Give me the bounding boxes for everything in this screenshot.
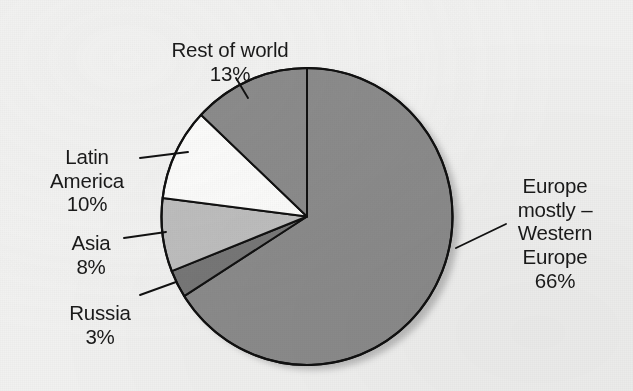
slice-label-russia: Russia 3% [38, 277, 162, 372]
slice-label-russia-name: Russia [69, 301, 130, 324]
slice-label-rest-of-world-value: 13% [132, 62, 328, 86]
slice-label-rest-of-world-name: Rest of world [171, 38, 288, 61]
slice-label-russia-value: 3% [38, 325, 162, 349]
slice-label-rest-of-world: Rest of world 13% [132, 14, 328, 109]
pie-chart-figure: Rest of world 13% Latin America 10% Asia… [0, 0, 633, 391]
slice-label-europe-name: Europe mostly – Western Europe [518, 174, 593, 268]
slice-label-europe: Europe mostly – Western Europe 66% [484, 150, 626, 316]
slice-label-latin-america-name: Latin America [50, 145, 124, 192]
slice-label-europe-value: 66% [484, 269, 626, 293]
pie-slices [162, 68, 453, 365]
slice-label-asia-value: 8% [36, 255, 146, 279]
slice-label-asia-name: Asia [71, 231, 110, 254]
